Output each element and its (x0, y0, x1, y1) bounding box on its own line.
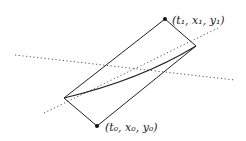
bottom-point-marker (95, 124, 99, 128)
diagram-canvas: (t₁, x₁, y₁) (t₀, x₀, y₀) (0, 0, 246, 141)
dotted-line-2 (44, 28, 218, 113)
trajectory-curve (64, 46, 196, 98)
top-point-marker (163, 17, 167, 21)
top-point-label: (t₁, x₁, y₁) (172, 14, 225, 27)
bounding-rectangle (64, 19, 196, 126)
dotted-line-1 (15, 55, 235, 80)
bottom-point-label: (t₀, x₀, y₀) (105, 121, 158, 134)
